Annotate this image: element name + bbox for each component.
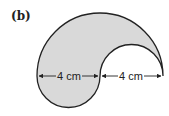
composite-shape-diagram: 4 cm 4 cm	[0, 0, 169, 116]
shaded-region	[37, 13, 163, 108]
left-dimension-label: 4 cm	[57, 70, 81, 82]
right-dimension-label: 4 cm	[119, 70, 143, 82]
